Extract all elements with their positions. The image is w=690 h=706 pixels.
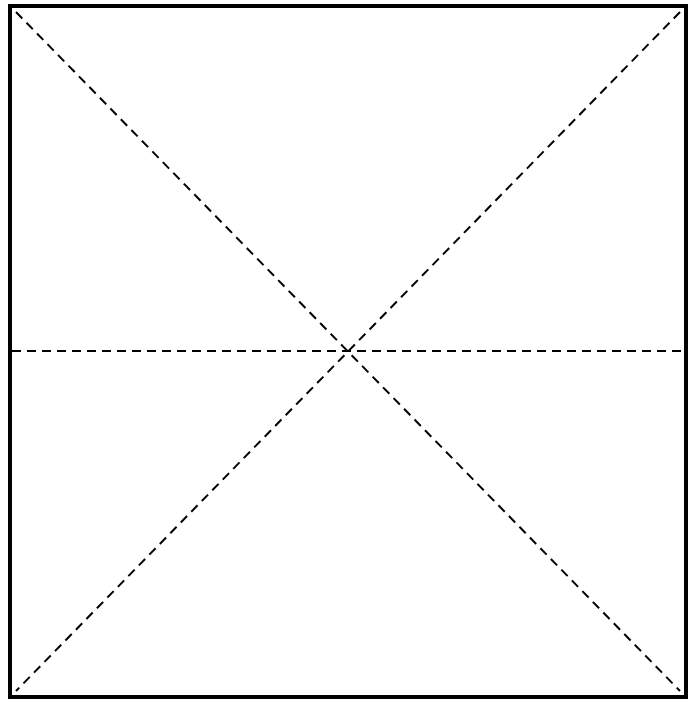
diagram-canvas	[0, 0, 690, 706]
